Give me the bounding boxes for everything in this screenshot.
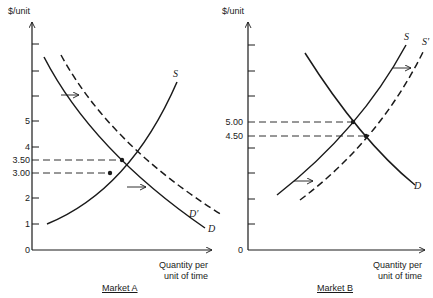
market-a-supply-label: S — [173, 69, 178, 79]
market-a-tick-1: 1 — [0, 219, 30, 229]
market-b-shift-arrows — [294, 68, 411, 181]
market-b-x-axis-label-line1: Quantity per — [362, 260, 422, 271]
market-b-supply-curve — [277, 45, 406, 195]
market-a-price-guides — [32, 160, 122, 173]
market-a-caption: Market A — [102, 283, 138, 293]
market-a-ticks — [32, 44, 39, 224]
market-b-demand-curve — [305, 53, 415, 185]
market-b-caption: Market B — [317, 283, 353, 293]
market-a-demand-label: D — [208, 224, 215, 234]
market-b-price-guides — [248, 122, 366, 136]
market-b-tick-5-00: 5.00 — [213, 117, 243, 127]
market-b-demand-label: D — [414, 181, 421, 191]
market-a-tick-3-00: 3.00 — [0, 168, 30, 178]
market-a-demand-curve — [44, 57, 205, 228]
market-b-tick-4-50: 4.50 — [213, 131, 243, 141]
market-b-x-axis-label-line2: unit of time — [362, 271, 422, 282]
market-a-demand-shifted-label: D′ — [189, 209, 198, 219]
market-b-supply-label: S — [404, 32, 409, 42]
market-b-ticks — [248, 45, 255, 224]
market-a-demand-shifted-curve — [61, 55, 222, 215]
market-b-supply-shifted-label: S′ — [422, 37, 429, 47]
market-a-supply-curve — [47, 82, 177, 224]
market-a-x-axis-label-line1: Quantity per — [148, 260, 208, 271]
market-a-tick-3-50: 3.50 — [0, 155, 30, 165]
market-a-tick-2: 2 — [0, 193, 30, 203]
market-a-tick-0: 0 — [0, 245, 30, 255]
market-a-y-axis-label: $/unit — [8, 6, 30, 16]
market-a-tick-4: 4 — [0, 142, 30, 152]
market-a-tick-5: 5 — [0, 116, 30, 126]
market-a-x-axis-label-line2: unit of time — [148, 271, 208, 282]
market-b-x-axis-label: Quantity per unit of time — [362, 260, 422, 282]
market-a-x-axis-label: Quantity per unit of time — [148, 260, 208, 282]
market-b-y-axis-label: $/unit — [222, 6, 244, 16]
market-b-tick-0: 0 — [213, 245, 243, 255]
